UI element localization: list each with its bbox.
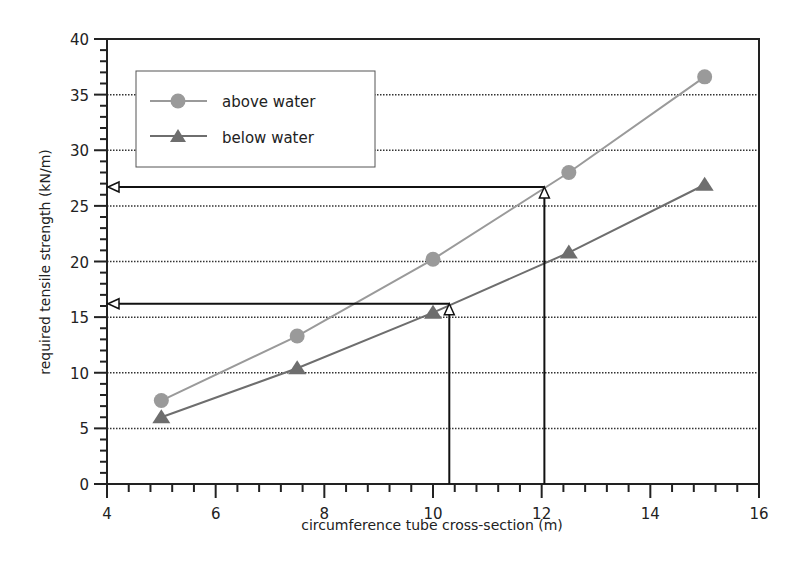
y-tick-label: 40	[70, 31, 89, 49]
y-tick-label: 30	[70, 142, 89, 160]
circle-marker-icon	[426, 252, 441, 267]
y-tick-label: 20	[70, 254, 89, 272]
y-tick-label: 5	[79, 420, 89, 438]
triangle-marker-icon	[560, 245, 578, 259]
x-tick-label: 14	[641, 505, 660, 523]
circle-marker-icon	[154, 393, 169, 408]
legend-label-above: above water	[222, 93, 316, 111]
y-tick-label: 0	[79, 476, 89, 494]
arrow-left-icon	[108, 182, 119, 192]
circle-marker-icon	[171, 94, 186, 109]
x-tick-label: 16	[749, 505, 768, 523]
circle-marker-icon	[290, 329, 305, 344]
triangle-marker-icon	[424, 305, 442, 319]
y-axis-title: required tensile strength (kN/m)	[37, 149, 53, 375]
series-line	[161, 185, 704, 418]
x-axis-title: circumference tube cross-section (m)	[301, 517, 563, 533]
legend-box	[136, 71, 375, 167]
arrow-up-icon	[444, 304, 454, 315]
y-tick-label: 10	[70, 365, 89, 383]
legend: above water below water	[136, 71, 375, 167]
arrow-left-icon	[108, 299, 119, 309]
x-tick-label: 4	[102, 505, 112, 523]
arrow-up-icon	[539, 187, 549, 198]
y-tick-label: 15	[70, 309, 89, 327]
chart: 051015202530354046810121416 above water …	[0, 0, 799, 584]
circle-marker-icon	[697, 69, 712, 84]
triangle-marker-icon	[696, 177, 714, 191]
triangle-marker-icon	[152, 409, 170, 423]
y-tick-label: 35	[70, 87, 89, 105]
legend-label-below: below water	[222, 129, 315, 147]
y-tick-label: 25	[70, 198, 89, 216]
circle-marker-icon	[561, 165, 576, 180]
x-tick-label: 6	[211, 505, 221, 523]
triangle-marker-icon	[288, 360, 306, 374]
